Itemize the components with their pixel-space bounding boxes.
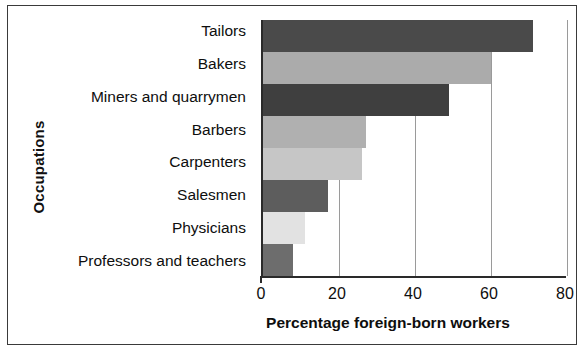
x-axis-origin-tick: [260, 276, 262, 283]
category-label: Professors and teachers: [42, 244, 251, 277]
x-tick-label: 80: [556, 285, 574, 303]
category-label: Barbers: [42, 113, 251, 146]
y-axis-category-labels: TailorsBakersMiners and quarrymenBarbers…: [42, 15, 251, 277]
bar-row: [263, 84, 567, 116]
x-axis-tick-labels: 020406080: [261, 285, 565, 309]
bar-row: [263, 212, 567, 244]
bar-row: [263, 244, 567, 276]
category-label: Carpenters: [42, 146, 251, 179]
bar-row: [263, 52, 567, 84]
x-axis-title: Percentage foreign-born workers: [208, 314, 568, 332]
bar: [263, 244, 293, 276]
gridline: [567, 20, 568, 276]
category-label: Bakers: [42, 48, 251, 81]
bar: [263, 52, 491, 84]
x-tick-label: 40: [404, 285, 422, 303]
x-tick-label: 0: [257, 285, 266, 303]
bar-row: [263, 20, 567, 52]
bar: [263, 20, 533, 52]
x-tick-label: 20: [328, 285, 346, 303]
bar: [263, 180, 328, 212]
plot-area: [261, 20, 567, 276]
category-label: Tailors: [42, 15, 251, 48]
bar-row: [263, 180, 567, 212]
bar: [263, 212, 305, 244]
bar: [263, 148, 362, 180]
x-tick-label: 60: [480, 285, 498, 303]
bar-row: [263, 116, 567, 148]
category-label: Salesmen: [42, 179, 251, 212]
bar-row: [263, 148, 567, 180]
bar-series: [263, 20, 567, 276]
category-label: Physicians: [42, 212, 251, 245]
category-label: Miners and quarrymen: [42, 81, 251, 114]
bar: [263, 116, 366, 148]
chart-figure: Occupations TailorsBakersMiners and quar…: [7, 5, 577, 345]
bar: [263, 84, 449, 116]
x-axis-line: [261, 276, 566, 278]
